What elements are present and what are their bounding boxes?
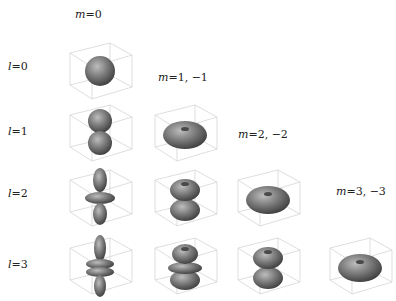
row-label-l-0: l=0 xyxy=(8,60,28,73)
m-value: =3, −3 xyxy=(346,185,385,198)
row-label-l-3: l=3 xyxy=(8,258,28,271)
d21-surface-icon xyxy=(145,160,225,230)
torus-surface-icon xyxy=(228,160,308,230)
harmonic-plot-l1-m1,-1 xyxy=(145,95,225,165)
m-value: =1, −1 xyxy=(168,71,207,84)
harmonic-plot-l3-m1,-1 xyxy=(145,228,225,298)
m-symbol: m xyxy=(336,185,346,198)
harmonic-plot-l2-m0 xyxy=(60,160,140,230)
column-header-m-2: m=2, −2 xyxy=(238,128,288,141)
row-label-l-1: l=1 xyxy=(8,125,28,138)
l-value: =3 xyxy=(12,258,28,271)
column-header-m-0: m=0 xyxy=(75,8,102,21)
f31-surface-icon xyxy=(145,228,225,298)
m-symbol: m xyxy=(158,71,168,84)
l-value: =1 xyxy=(12,125,28,138)
m-symbol: m xyxy=(238,128,248,141)
d2-surface-icon xyxy=(60,160,140,230)
sphere-surface-icon xyxy=(60,33,140,103)
harmonic-plot-l1-m0 xyxy=(60,95,140,165)
harmonic-plot-l2-m1,-1 xyxy=(145,160,225,230)
row-label-l-2: l=2 xyxy=(8,187,28,200)
harmonic-plot-l3-m0 xyxy=(60,228,140,298)
l-value: =2 xyxy=(12,187,28,200)
harmonic-plot-l3-m3,-3 xyxy=(320,228,396,298)
m-value: =2, −2 xyxy=(248,128,287,141)
f30-surface-icon xyxy=(60,228,140,298)
column-header-m-3: m=3, −3 xyxy=(336,185,386,198)
torus-surface-icon xyxy=(145,95,225,165)
d21-surface-icon xyxy=(228,228,308,298)
m-symbol: m xyxy=(75,8,85,21)
harmonic-plot-l0-m0 xyxy=(60,33,140,103)
torus-surface-icon xyxy=(320,228,396,298)
harmonic-plot-l2-m2,-2 xyxy=(228,160,308,230)
m-value: =0 xyxy=(85,8,101,21)
harmonic-plot-l3-m2,-2 xyxy=(228,228,308,298)
l-value: =0 xyxy=(12,60,28,73)
dumbbell-surface-icon xyxy=(60,95,140,165)
column-header-m-1: m=1, −1 xyxy=(158,71,208,84)
